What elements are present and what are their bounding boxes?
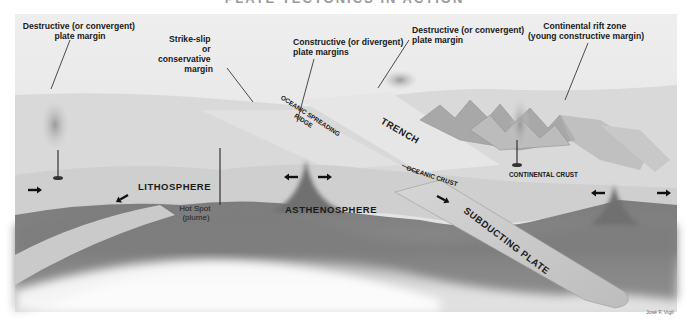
label-asthenosphere: ASTHENOSPHERE xyxy=(285,204,377,215)
plate-tectonics-illustration: Destructive (or convergent) plate margin… xyxy=(0,0,689,330)
label-lithosphere: LITHOSPHERE xyxy=(138,181,211,192)
magma-chamber-left xyxy=(53,176,63,180)
label-hot-spot: Hot Spot (plume) xyxy=(179,204,212,222)
label-continental-rift: Continental rift zone (young constructiv… xyxy=(528,21,644,41)
artist-credit: José F. Vigil xyxy=(646,309,674,315)
magma-chamber-right xyxy=(512,163,522,167)
smoke-plume-right xyxy=(510,97,530,153)
smoke-plume-left xyxy=(41,100,69,150)
label-continental-crust: CONTINENTAL CRUST xyxy=(509,171,578,178)
